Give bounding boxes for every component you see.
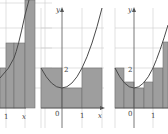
panel-3-rect-4 bbox=[144, 82, 153, 108]
panel-3-y-arrow-icon bbox=[132, 7, 136, 12]
panel-3-rect-6 bbox=[163, 42, 168, 108]
panel-1-x-label: x bbox=[22, 113, 26, 121]
panel-2-x-one-label: 1 bbox=[80, 112, 84, 120]
panel-2: y 2 0 1 x bbox=[41, 6, 105, 128]
panel-3-rect-2 bbox=[124, 82, 134, 108]
panel-2-rect-3 bbox=[82, 68, 102, 108]
panel-2-y-two-label: 2 bbox=[64, 66, 68, 74]
panel-2-origin-label: 0 bbox=[55, 110, 59, 118]
panel-3-rect-3 bbox=[134, 88, 144, 108]
panel-3: y 2 0 1 bbox=[115, 6, 168, 128]
panel-2-x-label: x bbox=[98, 112, 102, 120]
panel-3-rect-5 bbox=[153, 68, 163, 108]
riemann-sum-figures: 1 x y 2 0 1 x bbox=[0, 0, 168, 134]
panel-1: 1 x bbox=[0, 0, 52, 128]
panel-1-x-one-label: 1 bbox=[4, 113, 8, 121]
panel-2-rect-2 bbox=[62, 88, 82, 108]
panel-3-x-one-label: 1 bbox=[151, 112, 155, 120]
panel-2-y-label: y bbox=[55, 6, 61, 14]
panel-2-y-arrow-icon bbox=[60, 7, 64, 12]
panel-1-rect-1 bbox=[0, 68, 6, 108]
panel-3-origin-label: 0 bbox=[128, 110, 132, 118]
panel-3-rect-1 bbox=[115, 68, 124, 108]
panel-2-x-arrow-icon bbox=[100, 106, 105, 110]
panel-1-rect-4 bbox=[25, 0, 35, 108]
panel-3-y-label: y bbox=[127, 6, 133, 14]
panel-3-y-two-label: 2 bbox=[128, 66, 132, 74]
panel-1-rect-2 bbox=[6, 43, 14, 108]
